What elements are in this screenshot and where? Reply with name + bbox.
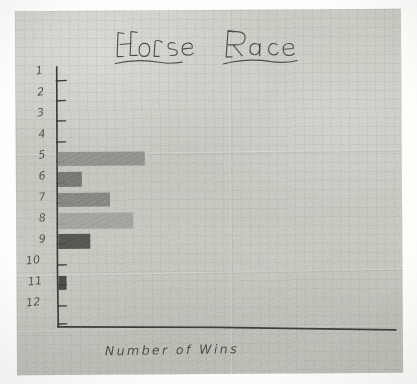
graph-paper-sheet: 1 2 3 4 5 6 7 8 9 10 11 12 Number of Win…	[15, 9, 403, 375]
x-axis-label: Number of Wins	[105, 341, 239, 358]
bar-row-7	[58, 193, 110, 207]
bar-row-5	[58, 151, 145, 166]
y-tick-label-1: 1	[21, 64, 44, 80]
y-tick-label-10: 10	[18, 253, 41, 268]
y-tick-label-9: 9	[24, 232, 47, 247]
y-tick-label-11: 11	[20, 274, 43, 289]
y-tick-label-3: 3	[22, 106, 45, 122]
photograph: 1 2 3 4 5 6 7 8 9 10 11 12 Number of Win…	[0, 0, 417, 384]
y-tick-label-6: 6	[23, 169, 46, 184]
y-tick-label-4: 4	[23, 127, 46, 142]
bar-chart: 1 2 3 4 5 6 7 8 9 10 11 12 Number of Win…	[15, 9, 403, 375]
y-tick-label-7: 7	[23, 190, 46, 205]
y-tick-label-12: 12	[18, 295, 41, 310]
y-tick-label-5: 5	[23, 148, 46, 163]
y-tick-label-8: 8	[24, 211, 47, 226]
bar-row-11	[59, 276, 67, 290]
bar-row-6	[58, 172, 82, 187]
bar-row-9	[58, 234, 90, 249]
y-tick-label-2: 2	[22, 85, 45, 100]
bar-row-8	[58, 212, 133, 228]
